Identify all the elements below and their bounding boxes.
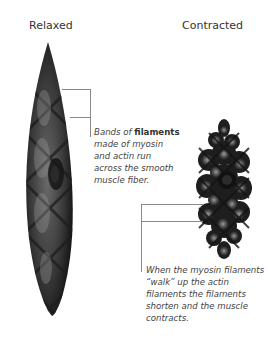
contracted-callout-line-bottom — [141, 221, 203, 222]
contracted-caption: When the myosin filaments “walk” up the … — [146, 264, 268, 324]
relaxed-caption-line: across the smooth — [94, 163, 173, 173]
relaxed-muscle-fiber — [20, 38, 82, 320]
contracted-callout-line-top — [141, 204, 203, 205]
contracted-callout-line-vertical — [141, 204, 142, 272]
contracted-muscle-fiber — [194, 118, 254, 260]
contracted-caption-line: shorten and the muscle — [146, 301, 248, 311]
relaxed-callout-line-top — [62, 89, 91, 90]
relaxed-caption-line: muscle fiber. — [94, 175, 149, 185]
contracted-caption-line: “walk” up the actin — [146, 277, 229, 287]
relaxed-caption-emphasis: filaments — [134, 127, 179, 137]
relaxed-label: Relaxed — [29, 19, 73, 32]
relaxed-caption-line: made of myosin — [94, 139, 163, 149]
contracted-label: Contracted — [182, 19, 243, 32]
relaxed-caption-line: and actin run — [94, 151, 151, 161]
contracted-caption-line: filaments the filaments — [146, 289, 246, 299]
contracted-caption-line: When the myosin filaments — [146, 265, 264, 275]
relaxed-callout-line-vertical — [90, 89, 91, 137]
contracted-caption-line: contracts. — [146, 313, 189, 323]
relaxed-callout-line-bottom — [70, 117, 91, 118]
relaxed-caption-prefix: Bands of — [94, 127, 134, 137]
